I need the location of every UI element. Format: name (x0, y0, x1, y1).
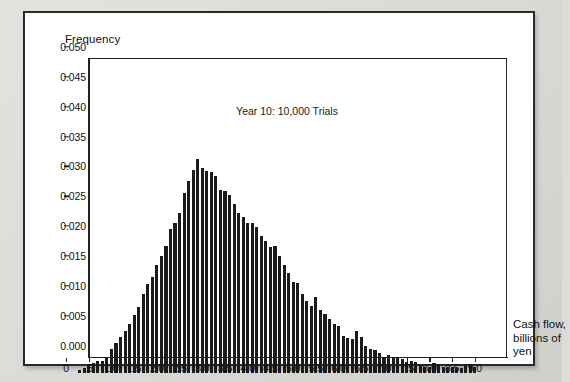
histogram-bar (414, 362, 417, 373)
histogram-bar (369, 349, 372, 373)
histogram-bar (205, 171, 208, 372)
histogram-bar (246, 223, 249, 372)
histogram-bar (460, 368, 463, 373)
x-axis-tick-label: 3.0 (195, 362, 209, 374)
x-axis-tick-label: 1.5 (127, 362, 141, 374)
x-axis-tick-label: 3.5 (218, 362, 232, 374)
x-axis-tick-label: 8.5 (445, 362, 459, 374)
histogram-bars (25, 13, 570, 382)
x-axis-tick-label: 2.5 (172, 362, 186, 374)
x-axis-caption-line-3: yen (513, 345, 570, 359)
histogram-bar (155, 265, 158, 372)
x-axis-tick-label: 2.0 (150, 362, 164, 374)
x-axis-tick-label: 6.5 (354, 362, 368, 374)
histogram-bar (237, 213, 240, 373)
histogram-bar (242, 217, 245, 372)
histogram-bar (214, 176, 217, 373)
x-axis-tick-label: 5.0 (286, 362, 300, 374)
histogram-bar (196, 159, 199, 372)
x-axis-tick-label: 0 (63, 362, 69, 374)
histogram-bar (119, 337, 122, 373)
histogram-bar (228, 195, 231, 373)
x-axis-tick-label: 7.5 (400, 362, 414, 374)
histogram-bar (187, 181, 190, 372)
x-axis-tick-label: 6.0 (331, 362, 345, 374)
x-axis-caption: Cash flow, billions of yen (513, 318, 570, 359)
x-axis-tick-label: 9.0 (468, 362, 482, 374)
histogram-bar (164, 246, 167, 373)
histogram-bar (223, 191, 226, 372)
histogram-bar (151, 277, 154, 373)
x-axis-tick-label: .5 (84, 362, 93, 374)
histogram-bar (283, 265, 286, 372)
histogram-bar (287, 273, 290, 372)
histogram-bar (273, 246, 276, 373)
histogram-bar (260, 236, 263, 372)
histogram-bar (255, 227, 258, 373)
histogram-bar (201, 168, 204, 372)
histogram-bar (192, 170, 195, 373)
histogram-bar (301, 294, 304, 373)
histogram-bar (169, 229, 172, 372)
x-axis-tick-label: 8.0 (422, 362, 436, 374)
histogram-bar (392, 357, 395, 373)
histogram-bar (142, 294, 145, 373)
histogram-bar (296, 283, 299, 373)
x-axis-tick-label: 1.0 (104, 362, 118, 374)
histogram-bar (160, 256, 163, 373)
histogram-bar (219, 190, 222, 373)
histogram-bar (78, 370, 81, 373)
histogram-bar (323, 314, 326, 373)
x-axis-tick-label: 7.0 (377, 362, 391, 374)
histogram-bar (278, 256, 281, 373)
histogram-bar (210, 172, 213, 373)
histogram-bar (178, 213, 181, 373)
histogram-bar (346, 338, 349, 373)
histogram-bar (437, 364, 440, 372)
histogram-bar (146, 284, 149, 372)
histogram-bar (233, 204, 236, 372)
histogram-bar (183, 193, 186, 372)
x-axis-caption-line-2: billions of (513, 332, 570, 346)
figure-panel: Frequency 0.0000.0050.0100.0150.0200.025… (23, 11, 535, 366)
histogram-bar (269, 247, 272, 372)
x-axis-tick-label: 5.5 (309, 362, 323, 374)
histogram-bar (173, 223, 176, 372)
x-axis-caption-line-1: Cash flow, (513, 318, 570, 332)
histogram-bar (264, 241, 267, 372)
x-axis-tick-label: 4.0 (241, 362, 255, 374)
histogram-bar (96, 361, 99, 373)
histogram-bar (251, 223, 254, 372)
x-axis-tick-label: 4.5 (263, 362, 277, 374)
chart-annotation: Year 10: 10,000 Trials (236, 105, 338, 117)
